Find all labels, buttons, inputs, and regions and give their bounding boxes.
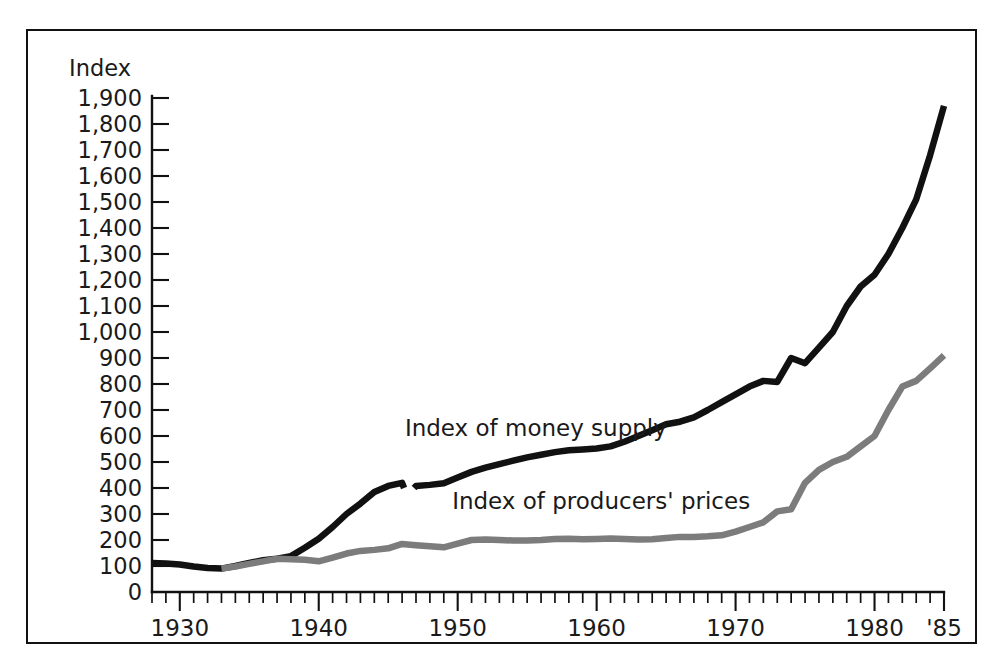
x-axis-tick-label: 1940 [289,615,348,641]
y-axis-tick-label: 1,000 [78,319,142,345]
y-axis-tick-label: 200 [99,527,142,553]
x-axis-tick-label: 1970 [706,615,765,641]
y-axis-tick-label: 400 [99,475,142,501]
y-axis-tick-label: 700 [99,397,142,423]
x-axis-tick-label: 1960 [567,615,626,641]
y-axis-tick-label: 0 [128,579,142,605]
y-axis-tick-label: 1,700 [78,137,142,163]
x-axis-tick-label: 1950 [428,615,487,641]
y-axis-tick-label: 600 [99,423,142,449]
line-chart-canvas: 01002003004005006007008009001,0001,1001,… [0,0,1008,669]
y-axis-tick-label: 1,500 [78,189,142,215]
x-axis-tick-label: '85 [926,615,962,641]
x-axis-tick-label: 1980 [845,615,904,641]
y-axis-tick-label: 500 [99,449,142,475]
y-axis-tick-label: 100 [99,553,142,579]
x-axis-tick-label: 1930 [151,615,210,641]
y-axis-tick-label: 900 [99,345,142,371]
figure-root: 01002003004005006007008009001,0001,1001,… [0,0,1008,669]
y-axis-tick-label: 1,100 [78,293,142,319]
y-axis-tick-label: 1,300 [78,241,142,267]
y-axis-tick-label: 1,900 [78,85,142,111]
y-axis-tick-label: 1,200 [78,267,142,293]
series-line-index-of-producers-prices [221,355,944,568]
y-axis-tick-label: 1,600 [78,163,142,189]
money-supply-label: Index of money supply [405,415,667,441]
y-axis-tick-label: 1,400 [78,215,142,241]
y-axis-title: Index [69,55,131,81]
y-axis-tick-label: 1,800 [78,111,142,137]
y-axis-tick-label: 800 [99,371,142,397]
producers-prices-label: Index of producers' prices [452,488,750,514]
y-axis-tick-label: 300 [99,501,142,527]
